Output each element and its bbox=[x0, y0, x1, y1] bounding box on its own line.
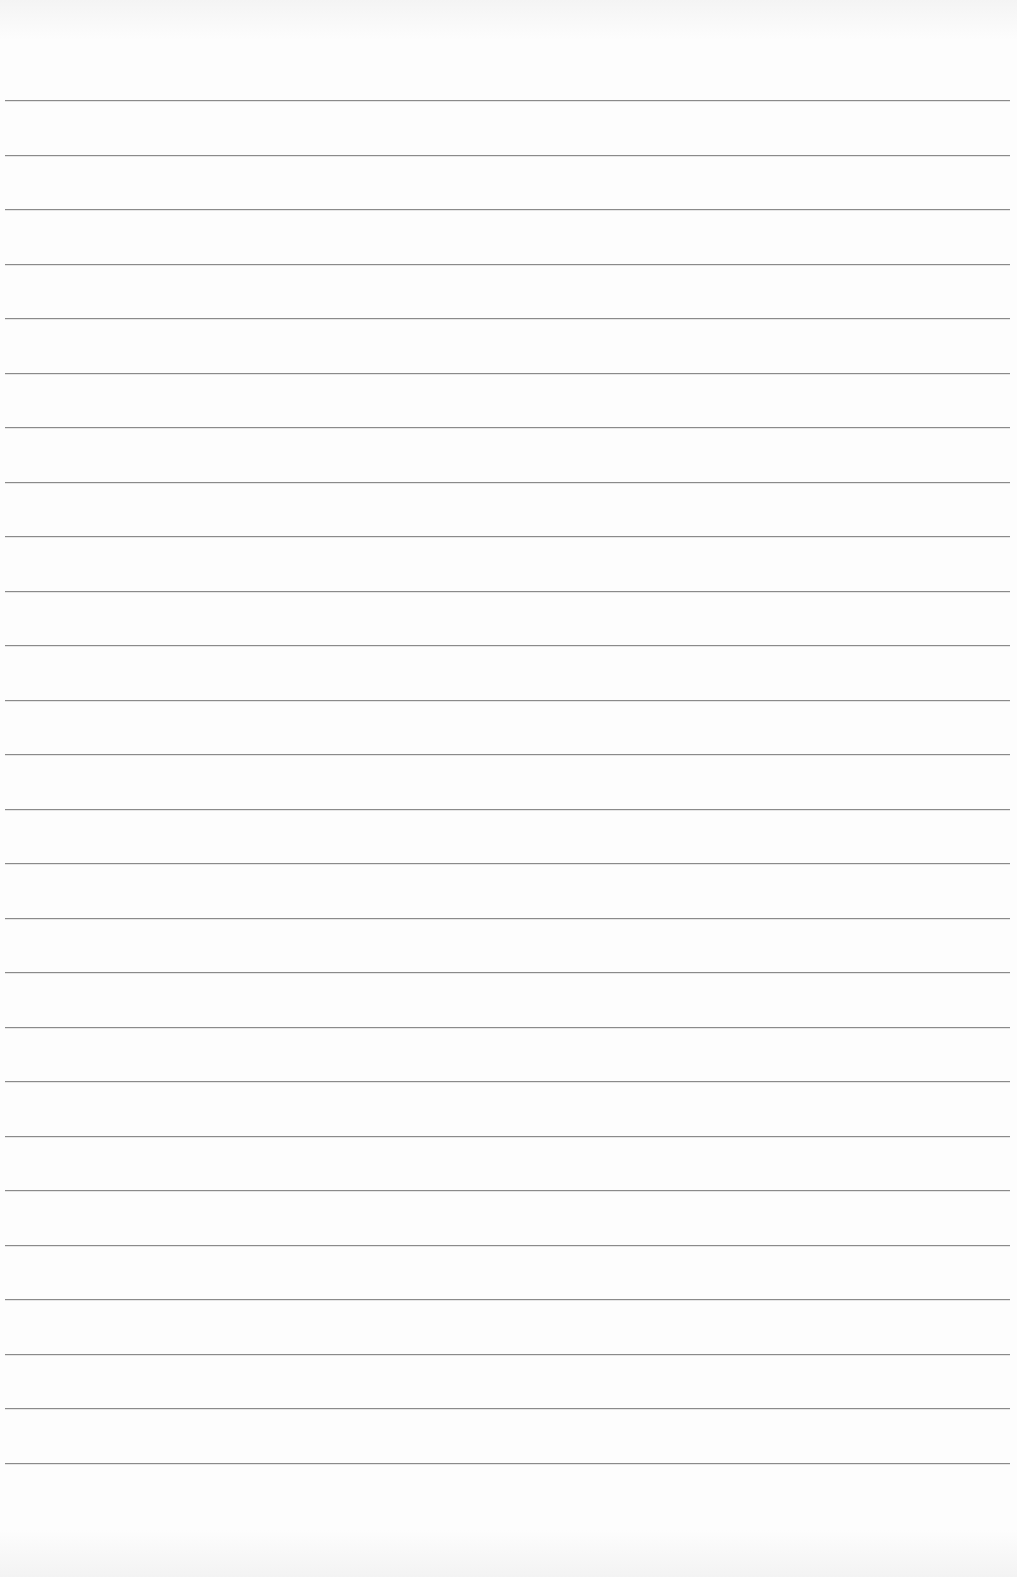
ruled-line bbox=[5, 1136, 1010, 1137]
ruled-line bbox=[5, 972, 1010, 973]
ruled-line bbox=[5, 264, 1010, 265]
ruled-line bbox=[5, 700, 1010, 701]
ruled-line bbox=[5, 427, 1010, 428]
ruled-line bbox=[5, 591, 1010, 592]
ruled-line bbox=[5, 482, 1010, 483]
ruled-line bbox=[5, 1081, 1010, 1082]
ruled-line bbox=[5, 645, 1010, 646]
ruled-line bbox=[5, 918, 1010, 919]
ruled-line bbox=[5, 863, 1010, 864]
ruled-line bbox=[5, 536, 1010, 537]
ruled-line bbox=[5, 1299, 1010, 1300]
ruled-line bbox=[5, 809, 1010, 810]
ruled-line bbox=[5, 373, 1010, 374]
ruled-line bbox=[5, 100, 1010, 101]
ruled-line bbox=[5, 1408, 1010, 1409]
ruled-line bbox=[5, 209, 1010, 210]
ruled-line bbox=[5, 1245, 1010, 1246]
ruled-line bbox=[5, 1354, 1010, 1355]
ruled-paper bbox=[0, 0, 1017, 1577]
ruled-line bbox=[5, 1027, 1010, 1028]
ruled-line bbox=[5, 754, 1010, 755]
ruled-line bbox=[5, 1190, 1010, 1191]
ruled-line bbox=[5, 155, 1010, 156]
ruled-line bbox=[5, 318, 1010, 319]
ruled-line bbox=[5, 1463, 1010, 1464]
